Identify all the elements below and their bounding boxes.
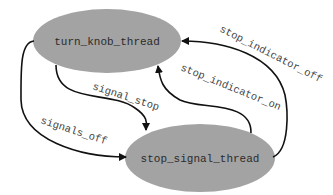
node-turn-knob-thread-label: turn_knob_thread bbox=[54, 36, 160, 48]
node-stop-signal-thread-label: stop_signal_thread bbox=[141, 153, 260, 165]
edge-stop-indicator-on-label: stop_indicator_on bbox=[179, 62, 283, 113]
node-turn-knob-thread: turn_knob_thread bbox=[33, 9, 181, 73]
edge-stop-indicator-on: stop_indicator_on bbox=[158, 62, 283, 133]
edge-signals-off-label: signals_off bbox=[39, 114, 109, 147]
edge-signal-stop: signal_stop bbox=[56, 65, 161, 130]
node-stop-signal-thread: stop_signal_thread bbox=[125, 124, 275, 192]
state-diagram: turn_knob_thread stop_signal_thread sign… bbox=[0, 0, 333, 195]
edge-stop-indicator-off-label: stop_indicator_off bbox=[218, 23, 325, 85]
